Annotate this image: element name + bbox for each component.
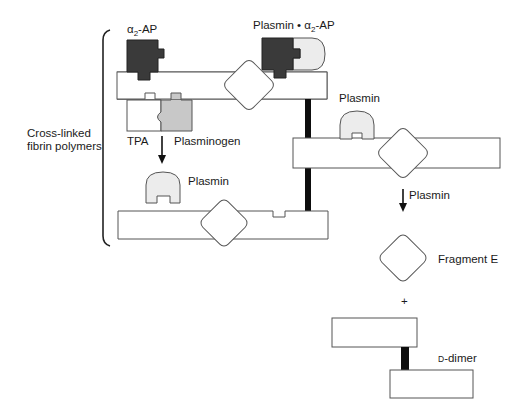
tpa-block [127, 100, 161, 131]
d-dimer-crosslink [401, 347, 409, 370]
fibrinolysis-diagram: Cross-linked fibrin polymers α2-AP Plasm… [0, 0, 518, 418]
plasmin-left [146, 172, 180, 203]
tpa-label: TPA [127, 135, 149, 147]
activation-arrow-head-icon [158, 155, 166, 164]
plasmin-right-label: Plasmin [339, 92, 380, 104]
plasminogen-label: Plasminogen [174, 135, 240, 147]
d-dimer-top-fragment [332, 318, 417, 347]
group-label-line2: fibrin polymers [27, 140, 102, 152]
group-bracket [103, 30, 110, 246]
e-domain-middle [376, 126, 430, 180]
group-label-line1: Cross-linked [27, 127, 91, 139]
e-domain-bottom [199, 198, 250, 249]
plasmin-arrow-label: Plasmin [409, 189, 450, 201]
plasmin-alpha2-ap-label: Plasmin • α2-AP [253, 19, 335, 34]
fragment-e [378, 233, 429, 284]
plasmin-left-label: Plasmin [188, 175, 229, 187]
plus-sign: + [401, 295, 408, 307]
fragment-e-label: Fragment E [438, 253, 498, 265]
plasmin-right [340, 111, 374, 139]
d-dimer-label: D-dimer [438, 352, 477, 364]
d-dimer-bottom-fragment [390, 370, 473, 398]
alpha2-ap-label: α2-AP [127, 23, 158, 38]
cleavage-arrow-head-icon [399, 203, 407, 212]
